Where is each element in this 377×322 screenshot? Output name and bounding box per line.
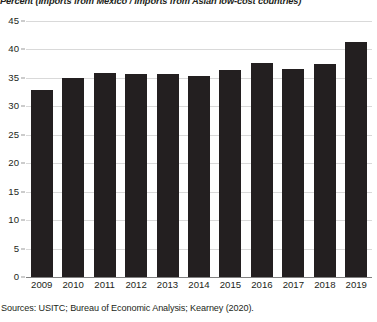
- bar-slot: [31, 21, 53, 277]
- y-tick-label: 35: [8, 73, 19, 83]
- source-note: Sources: USITC; Bureau of Economic Analy…: [1, 303, 254, 313]
- bar-2012: [125, 74, 147, 277]
- x-tick-label: 2019: [341, 280, 372, 290]
- bar-slot: [94, 21, 116, 277]
- chart-figure: Percent (Imports from Mexico / Imports f…: [0, 0, 377, 322]
- bar-2017: [282, 69, 304, 277]
- bar-2019: [345, 42, 367, 277]
- y-tick-mark: [21, 134, 25, 135]
- x-tick-label: 2017: [278, 280, 309, 290]
- y-tick-mark: [21, 191, 25, 192]
- bar-2010: [62, 78, 84, 277]
- gridline: [26, 277, 372, 278]
- y-tick-mark: [21, 248, 25, 249]
- x-tick-label: 2010: [57, 280, 88, 290]
- plot-area: [26, 21, 372, 277]
- x-tick-label: 2011: [89, 280, 120, 290]
- y-tick-mark: [21, 106, 25, 107]
- y-tick-label: 45: [8, 16, 19, 26]
- x-tick-label: 2013: [152, 280, 183, 290]
- y-axis: 051015202530354045: [0, 0, 26, 300]
- bar-2009: [31, 90, 53, 277]
- y-tick-label: 15: [8, 187, 19, 197]
- bar-slot: [282, 21, 304, 277]
- bar-series: [26, 21, 372, 277]
- y-tick-label: 40: [8, 45, 19, 55]
- bar-2013: [157, 74, 179, 277]
- x-tick-label: 2012: [120, 280, 151, 290]
- y-tick-mark: [21, 220, 25, 221]
- bar-2011: [94, 73, 116, 277]
- y-tick-label: 5: [14, 244, 19, 254]
- x-tick-label: 2014: [183, 280, 214, 290]
- bar-slot: [125, 21, 147, 277]
- y-tick-mark: [21, 49, 25, 50]
- x-tick-label: 2015: [215, 280, 246, 290]
- bar-slot: [62, 21, 84, 277]
- y-tick-mark: [21, 77, 25, 78]
- y-tick-label: 25: [8, 130, 19, 140]
- bar-slot: [251, 21, 273, 277]
- bar-slot: [188, 21, 210, 277]
- bar-2014: [188, 76, 210, 277]
- bar-slot: [314, 21, 336, 277]
- x-tick-label: 2018: [309, 280, 340, 290]
- y-tick-label: 20: [8, 158, 19, 168]
- x-tick-label: 2009: [26, 280, 57, 290]
- y-tick-mark: [21, 163, 25, 164]
- bar-2016: [251, 63, 273, 277]
- y-tick-label: 30: [8, 102, 19, 112]
- y-tick-label: 0: [14, 272, 19, 282]
- chart-axis-title: Percent (Imports from Mexico / Imports f…: [0, 0, 301, 6]
- bar-2018: [314, 64, 336, 277]
- bar-slot: [219, 21, 241, 277]
- y-tick-mark: [21, 21, 25, 22]
- y-tick-label: 10: [8, 215, 19, 225]
- bar-2015: [219, 70, 241, 277]
- x-axis: 2009201020112012201320142015201620172018…: [26, 280, 372, 296]
- bar-slot: [345, 21, 367, 277]
- bar-slot: [157, 21, 179, 277]
- y-tick-mark: [21, 277, 25, 278]
- x-tick-label: 2016: [246, 280, 277, 290]
